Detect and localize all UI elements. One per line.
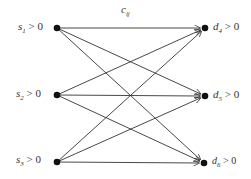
edge-s2-d5 xyxy=(57,95,200,96)
dest-label-d6: d6 > 0 xyxy=(212,155,236,169)
node-d6 xyxy=(201,160,208,167)
source-label-s1: s1 > 0 xyxy=(18,20,43,35)
source-label-s3: s3 > 0 xyxy=(16,153,41,168)
edge-s3-d4 xyxy=(57,31,201,162)
edges xyxy=(57,28,201,163)
edge-s3-d6 xyxy=(57,162,199,163)
dest-label-d5: d5 > 0 xyxy=(213,88,239,103)
node-s2 xyxy=(54,92,61,99)
edge-s1-d6 xyxy=(57,28,200,160)
edge-s3-d5 xyxy=(57,98,200,162)
edge-s2-d4 xyxy=(57,30,200,95)
node-s1 xyxy=(54,25,61,32)
edge-s2-d6 xyxy=(57,95,200,161)
node-s3 xyxy=(54,159,61,166)
node-d4 xyxy=(202,25,209,32)
source-label-s2: s2 > 0 xyxy=(16,87,41,102)
dest-label-d4: d4 > 0 xyxy=(213,20,239,35)
node-d5 xyxy=(202,93,209,100)
edge-cost-label: cij xyxy=(121,3,130,18)
edge-s1-d5 xyxy=(57,28,201,94)
